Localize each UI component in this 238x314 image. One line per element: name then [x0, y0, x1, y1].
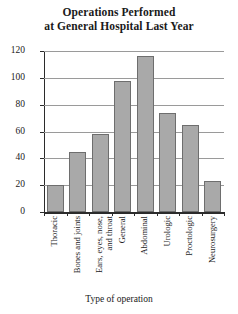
x-axis-category-label-line: and throat [105, 216, 115, 290]
y-axis-tick-mark [40, 132, 44, 133]
y-axis-tick-mark [40, 78, 44, 79]
chart-title-line-1: Operations Performed [0, 6, 238, 20]
bar [114, 81, 131, 212]
x-axis-category-label-line: Neurosurgery [208, 216, 218, 290]
x-axis-category-label-line: Abdominal [140, 216, 150, 290]
gridline [44, 51, 224, 52]
y-axis-tick-label: 20 [0, 180, 25, 190]
y-axis-tick-mark [40, 158, 44, 159]
x-axis-category-labels: ThoracicBones and jointsEars, eyes, nose… [44, 216, 224, 290]
y-axis-tick-mark [40, 185, 44, 186]
bar [159, 113, 176, 212]
y-axis-tick-mark [40, 51, 44, 52]
bar [47, 185, 64, 212]
bar [182, 125, 199, 212]
bar-chart: Operations Performed at General Hospital… [0, 0, 238, 314]
y-axis-tick-label: 0 [0, 207, 25, 217]
bar [69, 152, 86, 212]
gridline [44, 78, 224, 79]
x-axis-category-label-line: Proctologic [185, 216, 195, 290]
x-axis-category-label-line: General [118, 216, 128, 290]
y-axis-tick-label: 100 [0, 73, 25, 83]
plot-area: 020406080100120 [44, 51, 224, 212]
bar [92, 134, 109, 212]
y-axis-tick-label: 60 [0, 127, 25, 137]
y-axis-tick-mark [40, 105, 44, 106]
y-axis-tick-label: 40 [0, 153, 25, 163]
bar [137, 56, 154, 212]
x-axis-category-label-line: Urologic [163, 216, 173, 290]
bar [204, 181, 221, 212]
x-axis-tick-mark [224, 212, 225, 216]
y-axis-tick-label: 80 [0, 100, 25, 110]
chart-title: Operations Performed at General Hospital… [0, 6, 238, 33]
x-axis-category-label-line: Bones and joints [73, 216, 83, 290]
y-axis-tick-label: 120 [0, 46, 25, 56]
x-axis-title: Type of operation [0, 294, 238, 304]
chart-title-line-2: at General Hospital Last Year [0, 20, 238, 34]
gridline [44, 105, 224, 106]
x-axis-category-label-line: Thoracic [50, 216, 60, 290]
